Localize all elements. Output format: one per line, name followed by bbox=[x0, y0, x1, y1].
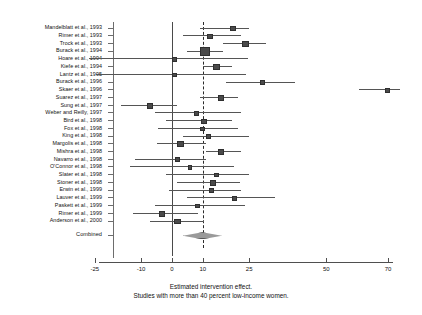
confidence-interval-line bbox=[183, 136, 249, 137]
study-row-tick bbox=[108, 120, 114, 121]
study-row-tick bbox=[108, 105, 114, 106]
study-row-tick bbox=[108, 128, 114, 129]
x-axis-tick-label: 0 bbox=[170, 266, 173, 272]
effect-marker bbox=[174, 219, 181, 225]
study-row-tick bbox=[108, 82, 114, 83]
effect-marker bbox=[214, 173, 219, 178]
x-axis-tick bbox=[95, 258, 96, 263]
confidence-interval-line bbox=[177, 182, 240, 183]
study-row-tick bbox=[108, 166, 114, 167]
axis-caption-secondary: Studies with more than 40 percent low-in… bbox=[0, 292, 422, 299]
effect-marker bbox=[175, 157, 181, 162]
x-axis-tick-label: 70 bbox=[385, 266, 392, 272]
effect-marker bbox=[159, 211, 166, 217]
x-axis-tick-label: 10 bbox=[200, 266, 207, 272]
effect-marker bbox=[242, 41, 249, 47]
x-axis-tick bbox=[388, 258, 389, 263]
confidence-interval-line bbox=[166, 174, 249, 175]
effect-marker bbox=[200, 127, 205, 132]
study-row-tick bbox=[108, 213, 114, 214]
study-row-tick bbox=[108, 143, 114, 144]
effect-marker bbox=[147, 103, 154, 109]
study-row-tick bbox=[108, 174, 114, 175]
x-axis-tick bbox=[172, 258, 173, 263]
confidence-interval-line bbox=[166, 120, 232, 121]
x-axis-tick-label: 25 bbox=[246, 266, 253, 272]
effect-marker bbox=[385, 88, 390, 93]
confidence-interval-line bbox=[158, 128, 238, 129]
study-row-tick bbox=[108, 35, 114, 36]
study-row-tick bbox=[108, 197, 114, 198]
x-axis-line bbox=[99, 262, 393, 263]
effect-marker bbox=[218, 95, 225, 101]
effect-marker bbox=[200, 47, 210, 55]
effect-marker bbox=[194, 111, 199, 116]
study-row-tick bbox=[108, 51, 114, 52]
x-axis-tick bbox=[203, 258, 204, 263]
x-axis-tick bbox=[249, 258, 250, 263]
study-row-tick bbox=[108, 182, 114, 183]
confidence-interval-line bbox=[130, 166, 233, 167]
study-row-tick bbox=[108, 136, 114, 137]
effect-marker bbox=[213, 64, 220, 70]
x-axis-tick bbox=[326, 258, 327, 263]
effect-marker bbox=[207, 34, 213, 39]
x-axis-tick-label: -25 bbox=[91, 266, 100, 272]
study-row-tick bbox=[108, 205, 114, 206]
study-row-tick bbox=[108, 28, 114, 29]
combined-row-tick bbox=[108, 235, 114, 236]
effect-marker bbox=[206, 134, 211, 139]
study-row-tick bbox=[108, 159, 114, 160]
effect-marker bbox=[218, 149, 225, 155]
combined-effect-diamond bbox=[183, 232, 222, 239]
study-row-tick bbox=[108, 66, 114, 67]
effect-marker bbox=[232, 196, 237, 201]
forest-plot: Mandelblatt et al., 1993Rimer et al., 19… bbox=[0, 0, 422, 315]
study-row-tick bbox=[108, 112, 114, 113]
effect-marker bbox=[188, 165, 193, 170]
effect-marker bbox=[195, 204, 200, 209]
study-row-tick bbox=[108, 221, 114, 222]
effect-marker bbox=[172, 73, 177, 78]
confidence-interval-line bbox=[89, 58, 248, 59]
axis-caption-primary: Estimated intervention effect. bbox=[0, 283, 422, 290]
study-row-tick bbox=[108, 190, 114, 191]
effect-marker bbox=[209, 188, 215, 193]
study-row-tick bbox=[108, 151, 114, 152]
x-axis-tick-label: 50 bbox=[323, 266, 330, 272]
confidence-interval-line bbox=[135, 159, 206, 160]
study-row-tick bbox=[108, 89, 114, 90]
effect-marker bbox=[230, 26, 236, 31]
effect-marker bbox=[260, 80, 265, 85]
x-axis-tick-label: -10 bbox=[137, 266, 146, 272]
confidence-interval-line bbox=[359, 89, 401, 90]
confidence-interval-line bbox=[133, 213, 198, 214]
confidence-interval-line bbox=[169, 190, 242, 191]
effect-marker bbox=[201, 119, 207, 124]
effect-marker bbox=[177, 141, 184, 147]
effect-marker bbox=[172, 57, 177, 62]
plot-area bbox=[0, 0, 422, 268]
study-row-tick bbox=[108, 43, 114, 44]
x-axis-tick bbox=[141, 258, 142, 263]
study-row-tick bbox=[108, 97, 114, 98]
effect-marker bbox=[210, 180, 217, 186]
confidence-interval-line bbox=[200, 28, 249, 29]
